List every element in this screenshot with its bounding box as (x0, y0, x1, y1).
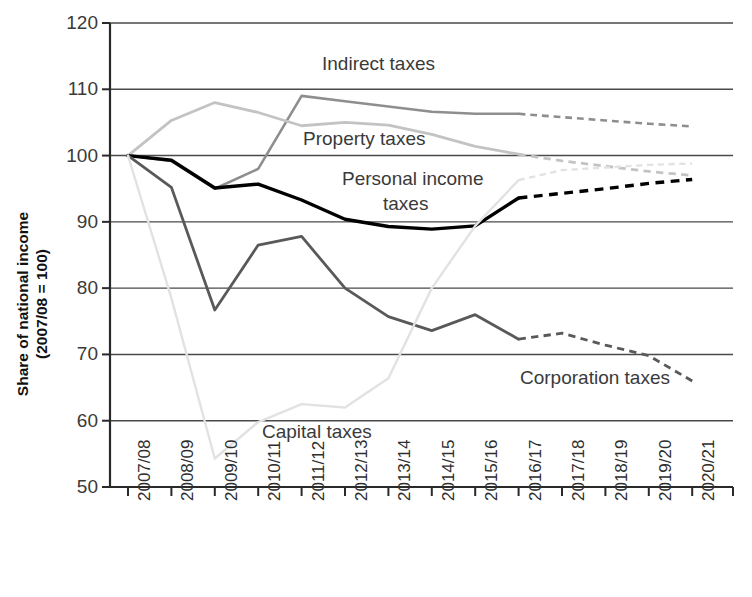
series-label-personal-income: Personal income (342, 168, 484, 189)
series-line-personal-income-taxes (128, 156, 519, 230)
chart-container: Share of national income (2007/08 = 100)… (0, 0, 752, 597)
x-tick-label-2011-12: 2011/12 (309, 441, 329, 501)
x-tick-label-2014-15: 2014/15 (439, 440, 459, 501)
x-tick-label-2016-17: 2016/17 (526, 440, 546, 501)
x-tick-label-2012-13: 2012/13 (352, 440, 372, 501)
y-tick-label-70: 70 (0, 343, 98, 365)
y-tick-label-80: 80 (0, 277, 98, 299)
y-tick-label-100: 100 (0, 145, 98, 167)
series-forecast-indirect-taxes (519, 114, 693, 127)
series-label-taxes: taxes (383, 193, 428, 214)
y-tick-label-90: 90 (0, 211, 98, 233)
y-tick-label-50: 50 (0, 476, 98, 498)
series-forecast-personal-income-taxes (519, 179, 693, 198)
x-tick-label-2015-16: 2015/16 (482, 440, 502, 501)
x-tick-label-2018-19: 2018/19 (612, 440, 632, 501)
series-line-capital-taxes (128, 156, 519, 459)
x-tick-label-2019-20: 2019/20 (656, 440, 676, 501)
series-forecast-capital-taxes (519, 164, 693, 181)
x-tick-label-2020-21: 2020/21 (699, 440, 719, 501)
x-tick-label-2009-10: 2009/10 (222, 440, 242, 501)
series-label-corporation-taxes: Corporation taxes (520, 367, 670, 388)
y-tick-label-60: 60 (0, 410, 98, 432)
x-tick-label-2010-11: 2010/11 (265, 441, 285, 501)
x-tick-label-2017-18: 2017/18 (569, 440, 589, 501)
x-tick-label-2008-09: 2008/09 (178, 440, 198, 501)
line-chart-plot: Indirect taxesProperty taxesPersonal inc… (0, 0, 752, 597)
y-tick-label-120: 120 (0, 12, 98, 34)
series-label-indirect-taxes: Indirect taxes (322, 53, 435, 74)
y-tick-label-110: 110 (0, 78, 98, 100)
x-tick-label-2013-14: 2013/14 (395, 440, 415, 501)
series-label-property-taxes: Property taxes (303, 128, 426, 149)
x-tick-label-2007-08: 2007/08 (135, 440, 155, 501)
series-forecast-property-taxes (519, 154, 693, 175)
